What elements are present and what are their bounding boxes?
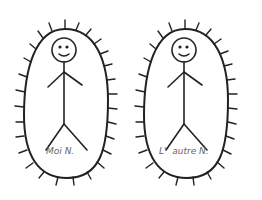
- stick-figure-other: [135, 20, 237, 185]
- stick-figure-self: [15, 20, 117, 185]
- label-other: L' autre N.: [159, 146, 209, 156]
- label-self: Moi N.: [46, 146, 74, 156]
- drawing-canvas: [0, 0, 262, 200]
